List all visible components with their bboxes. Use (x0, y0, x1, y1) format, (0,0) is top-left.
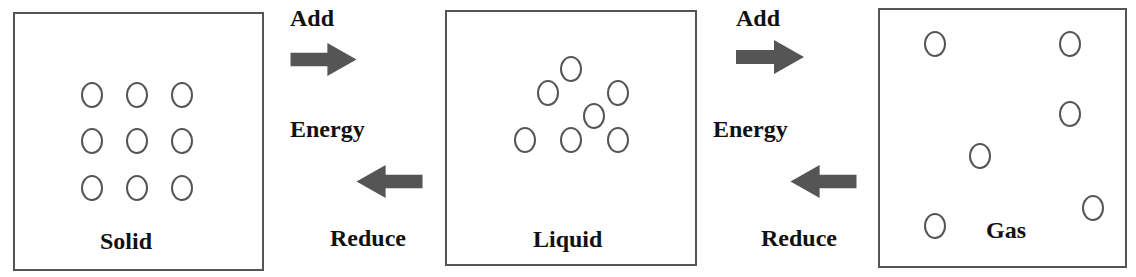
liquid-particle (560, 127, 582, 153)
solid-particle (81, 128, 103, 154)
liquid-to-gas-reduce-label: Reduce (761, 226, 837, 250)
solid-to-liquid-right-arrow-icon (289, 43, 358, 76)
liquid-particle (607, 80, 629, 106)
solid-particle (81, 175, 103, 201)
gas-label: Gas (986, 218, 1026, 242)
gas-particle (1059, 31, 1081, 57)
liquid-to-gas-add-label: Add (736, 6, 780, 30)
liquid-particle (560, 56, 582, 82)
solid-label: Solid (100, 229, 152, 253)
gas-particle (924, 213, 946, 239)
gas-particle (924, 31, 946, 57)
gas-particle (969, 143, 991, 169)
liquid-to-gas-energy-label: Energy (713, 117, 788, 141)
liquid-particle (537, 80, 559, 106)
liquid-to-gas-left-arrow-icon (789, 165, 858, 198)
solid-particle (171, 175, 193, 201)
solid-particle (126, 175, 148, 201)
solid-particle (81, 82, 103, 108)
solid-to-liquid-energy-label: Energy (290, 117, 365, 141)
solid-particle (171, 82, 193, 108)
solid-particle (126, 82, 148, 108)
solid-to-liquid-left-arrow-icon (355, 165, 424, 198)
solid-to-liquid-add-label: Add (290, 6, 334, 30)
liquid-particle (607, 127, 629, 153)
liquid-particle (514, 127, 536, 153)
solid-to-liquid-reduce-label: Reduce (330, 226, 406, 250)
solid-particle (126, 128, 148, 154)
liquid-particle (583, 103, 605, 129)
liquid-to-gas-right-arrow-icon (736, 40, 804, 74)
gas-particle (1059, 101, 1081, 127)
liquid-label: Liquid (533, 227, 602, 251)
solid-particle (171, 128, 193, 154)
gas-particle (1082, 195, 1104, 221)
